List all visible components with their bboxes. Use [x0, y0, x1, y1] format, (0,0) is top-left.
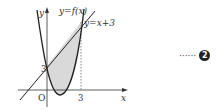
x-axis-arrow-icon — [122, 88, 128, 92]
origin-label: O — [38, 93, 45, 103]
x-tick-3: 3 — [78, 93, 83, 103]
equation-marker: ······ 2 — [179, 50, 210, 61]
curve-label: y=f(x) — [58, 6, 88, 16]
graph-figure: y y=f(x) y=x+3 3 O 3 x — [0, 0, 140, 111]
leader-dots: ······ — [179, 51, 196, 61]
y-tick-3: 3 — [41, 64, 46, 74]
y-axis-arrow-icon — [45, 7, 49, 13]
y-axis-label: y — [38, 8, 45, 18]
x-axis-label: x — [121, 93, 126, 103]
circled-number-icon: 2 — [199, 50, 210, 61]
line-label: y=x+3 — [83, 18, 115, 28]
